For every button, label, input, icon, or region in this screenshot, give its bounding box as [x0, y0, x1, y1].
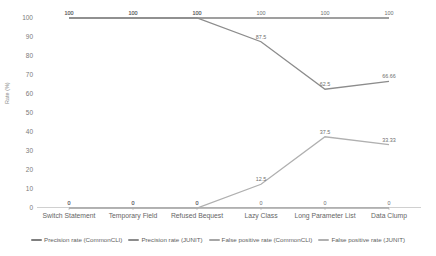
legend-label: Precision rate (CommonCLI) [44, 236, 122, 243]
series-line [69, 18, 389, 89]
x-tick-label: Data Clump [371, 213, 407, 220]
legend-label: False positive rate (JUNIT) [331, 236, 405, 243]
data-label: 62.5 [320, 82, 331, 87]
x-tick-label: Switch Statement [43, 213, 96, 220]
data-label: 0 [324, 201, 327, 206]
y-tick-label: 100 [22, 15, 33, 22]
x-tick-label: Temporary Field [109, 213, 158, 220]
y-tick-label: 60 [26, 91, 33, 98]
data-label: 37.5 [320, 129, 331, 134]
x-tick-label: Refused Bequest [171, 213, 223, 220]
data-label: 100 [321, 11, 330, 16]
y-tick-label: 80 [26, 53, 33, 60]
x-tick-label: Long Parameter List [294, 213, 355, 220]
data-label: 0 [196, 201, 199, 206]
data-label: 0 [132, 201, 135, 206]
data-label: 100 [129, 11, 138, 16]
data-label: 0 [260, 201, 263, 206]
data-label: 100 [385, 11, 394, 16]
data-label: 100 [65, 11, 74, 16]
legend-swatch [31, 239, 42, 241]
x-tick-label: Lazy Class [244, 213, 277, 220]
y-tick-label: 70 [26, 72, 33, 79]
y-tick-label: 0 [29, 205, 33, 212]
legend-swatch [318, 239, 329, 241]
data-label: 87.5 [256, 34, 267, 39]
data-label: 100 [257, 11, 266, 16]
y-tick-label: 10 [26, 186, 33, 193]
chart-figure: Rate (%) 1009080706050403020100 10010010… [0, 0, 436, 256]
y-tick-label: 90 [26, 34, 33, 41]
plot-area: 1009080706050403020100 10010010010010010… [37, 18, 421, 208]
legend-item[interactable]: False positive rate (JUNIT) [318, 236, 405, 243]
y-axis-title: Rate (%) [4, 82, 10, 104]
y-tick-label: 40 [26, 129, 33, 136]
y-tick-label: 30 [26, 148, 33, 155]
legend-label: Precision rate (JUNIT) [141, 236, 202, 243]
legend-swatch [128, 239, 139, 241]
data-label: 33.33 [382, 137, 396, 142]
chart-legend: Precision rate (CommonCLI)Precision rate… [0, 236, 436, 243]
x-axis-category-labels: Switch StatementTemporary FieldRefused B… [37, 213, 421, 227]
legend-label: False positive rate (CommonCLI) [222, 236, 313, 243]
data-label: 0 [388, 201, 391, 206]
data-label: 100 [193, 11, 202, 16]
y-tick-label: 50 [26, 110, 33, 117]
series-line [69, 137, 389, 208]
legend-item[interactable]: Precision rate (CommonCLI) [31, 236, 122, 243]
series-lines [37, 18, 421, 208]
y-tick-label: 20 [26, 167, 33, 174]
legend-swatch [209, 239, 220, 241]
data-label: 12.5 [256, 177, 267, 182]
data-label: 0 [68, 201, 71, 206]
data-label: 66.66 [382, 74, 396, 79]
legend-item[interactable]: Precision rate (JUNIT) [128, 236, 202, 243]
legend-item[interactable]: False positive rate (CommonCLI) [209, 236, 313, 243]
